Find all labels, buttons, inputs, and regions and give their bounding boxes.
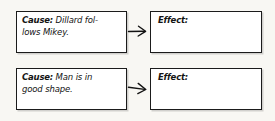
effect-box[interactable]: Effect:	[150, 68, 262, 110]
cause-label: Cause:	[22, 72, 53, 82]
effect-box-text: Effect:	[158, 15, 188, 27]
effect-label: Effect:	[158, 72, 188, 82]
effect-box[interactable]: Effect:	[150, 11, 262, 53]
cause-effect-row: Cause: Dillard fol- lows Mikey. Effect:	[0, 11, 275, 55]
cause-box[interactable]: Cause: Man is in good shape.	[16, 68, 127, 110]
cause-box-text: Cause: Man is in good shape.	[22, 72, 123, 95]
arrow-right-icon	[127, 11, 151, 53]
cause-effect-worksheet: Cause: Dillard fol- lows Mikey. Effect: …	[0, 0, 275, 121]
cause-label: Cause:	[22, 15, 53, 25]
cause-box[interactable]: Cause: Dillard fol- lows Mikey.	[16, 11, 127, 53]
cause-effect-row: Cause: Man is in good shape. Effect:	[0, 68, 275, 112]
effect-label: Effect:	[158, 15, 188, 25]
arrow-right-icon	[127, 68, 151, 110]
effect-box-text: Effect:	[158, 72, 188, 84]
cause-box-text: Cause: Dillard fol- lows Mikey.	[22, 15, 123, 38]
